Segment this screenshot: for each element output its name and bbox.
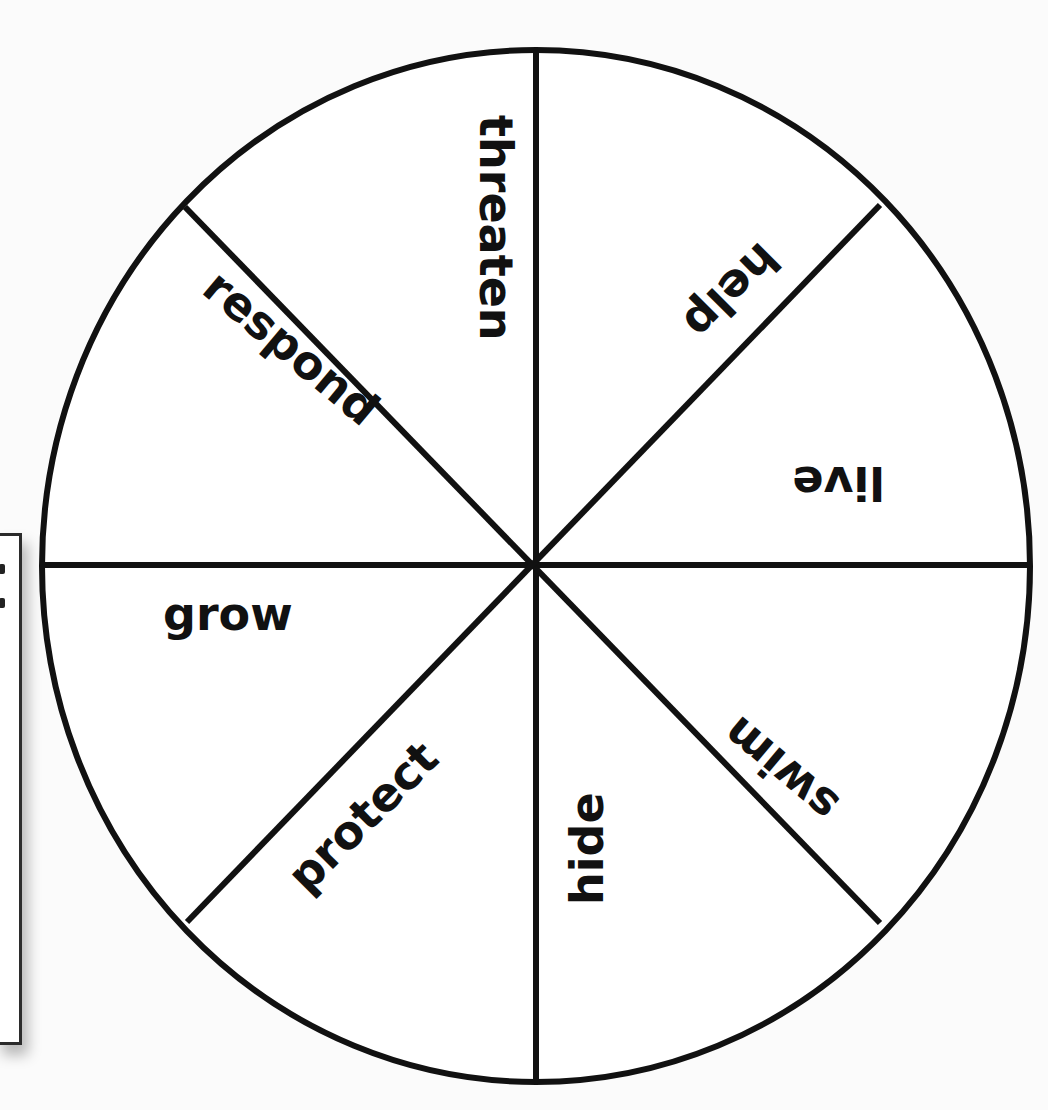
wheel-lines: [42, 50, 1030, 1082]
label-hide: hide: [560, 792, 614, 905]
label-live: live: [792, 456, 885, 510]
label-grow: grow: [163, 587, 293, 641]
word-wheel: threaten help live swim hide protect gro…: [0, 0, 1048, 1110]
label-threaten: threaten: [469, 115, 523, 341]
